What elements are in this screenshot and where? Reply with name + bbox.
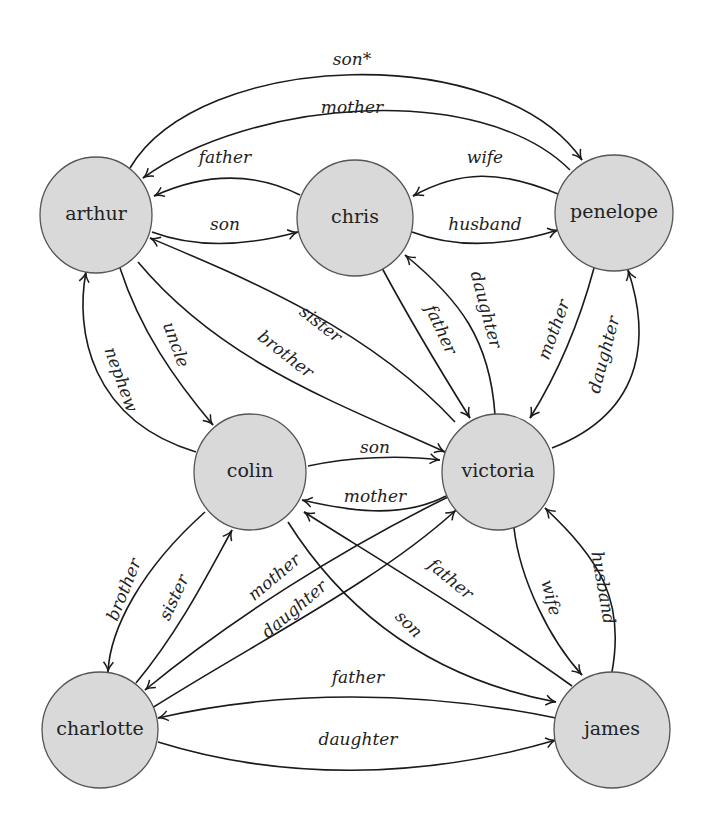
edge-chris-arthur-father: [154, 178, 300, 196]
edge-label: son: [360, 437, 390, 457]
node-label: chris: [331, 205, 379, 227]
edge-label: mother: [321, 97, 384, 117]
edge-label: daughter: [467, 269, 507, 351]
family-relation-graph: son* mother father son wife husband sist…: [0, 0, 709, 825]
node-label: arthur: [65, 202, 128, 224]
edge-james-colin-father: [304, 512, 572, 686]
node-label: victoria: [460, 459, 534, 481]
node-charlotte: charlotte: [42, 672, 158, 788]
edge-labels: son* mother father son wife husband sist…: [100, 49, 623, 749]
node-victoria: victoria: [442, 414, 554, 530]
node-label: colin: [227, 459, 273, 481]
edge-label: daughter: [319, 729, 399, 749]
edge-label: husband: [587, 550, 619, 626]
edge-victoria-arthur-sister: [150, 238, 455, 422]
node-arthur: arthur: [40, 157, 152, 273]
node-james: james: [554, 672, 670, 788]
node-label: penelope: [570, 200, 658, 222]
edge-label: uncle: [159, 319, 194, 370]
edge-label: mother: [344, 486, 407, 506]
edge-label: husband: [448, 214, 522, 234]
edge-label: sister: [154, 571, 193, 624]
edge-label: wife: [467, 147, 503, 167]
edge-james-charlotte-father: [158, 697, 556, 718]
edge-label: son: [210, 214, 240, 234]
edge-label: mother: [534, 296, 574, 362]
edge-colin-james-son: [288, 522, 556, 702]
node-colin: colin: [194, 414, 306, 530]
edge-penelope-chris-wife: [413, 176, 558, 196]
node-label: charlotte: [56, 717, 143, 739]
edge-colin-victoria-son: [308, 457, 440, 466]
node-label: james: [582, 717, 640, 739]
edge-label: brother: [254, 326, 318, 382]
edge-label: sister: [296, 301, 347, 347]
edge-label: father: [330, 667, 385, 687]
node-chris: chris: [297, 160, 413, 276]
edge-label: son*: [333, 49, 372, 69]
edge-label: father: [420, 300, 461, 359]
edge-label: wife: [537, 577, 566, 617]
edge-arthur-penelope-son-star: [130, 75, 582, 168]
edge-label: father: [423, 553, 478, 604]
node-penelope: penelope: [555, 155, 673, 271]
edge-arthur-chris-son: [152, 232, 298, 244]
edge-label: father: [197, 147, 252, 167]
edge-label: nephew: [100, 344, 142, 415]
nodes: arthur chris penelope colin victoria cha…: [40, 155, 673, 788]
edge-label: daughter: [584, 313, 624, 395]
